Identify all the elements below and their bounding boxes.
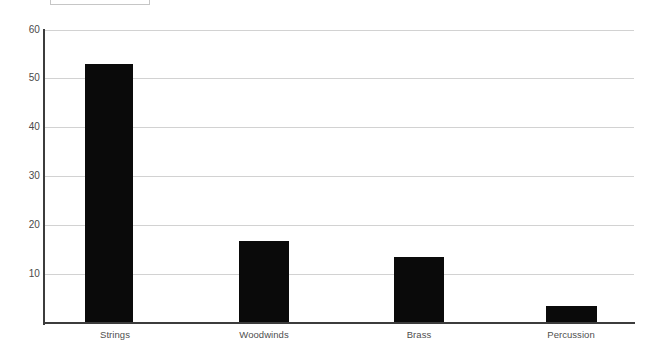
bar-percussion xyxy=(546,306,597,323)
ytick-label: 20 xyxy=(4,220,40,230)
xtick-label-brass: Brass xyxy=(369,329,469,340)
bar-brass xyxy=(394,257,444,323)
x-axis-line xyxy=(43,322,635,324)
chart-screenshot: 60 50 40 30 20 10 Strings Woodwinds B xyxy=(0,0,661,360)
ytick-10: 10 xyxy=(0,269,40,279)
xtick-label-percussion: Percussion xyxy=(521,329,621,340)
xtick-label-strings: Strings xyxy=(65,329,165,340)
ytick-60: 60 xyxy=(0,25,40,35)
ytick-label: 50 xyxy=(4,73,40,83)
bar-chart: 60 50 40 30 20 10 Strings Woodwinds B xyxy=(0,0,661,360)
bar-strings xyxy=(85,64,133,323)
y-axis-line xyxy=(43,29,45,325)
plot-area xyxy=(43,30,634,323)
ytick-30: 30 xyxy=(0,171,40,181)
ytick-50: 50 xyxy=(0,73,40,83)
ytick-label: 30 xyxy=(4,171,40,181)
ytick-20: 20 xyxy=(0,220,40,230)
xtick-label-woodwinds: Woodwinds xyxy=(214,329,314,340)
ytick-label: 10 xyxy=(4,269,40,279)
ytick-label: 40 xyxy=(4,122,40,132)
bar-woodwinds xyxy=(239,241,289,323)
ytick-label: 60 xyxy=(4,25,40,35)
ytick-40: 40 xyxy=(0,122,40,132)
